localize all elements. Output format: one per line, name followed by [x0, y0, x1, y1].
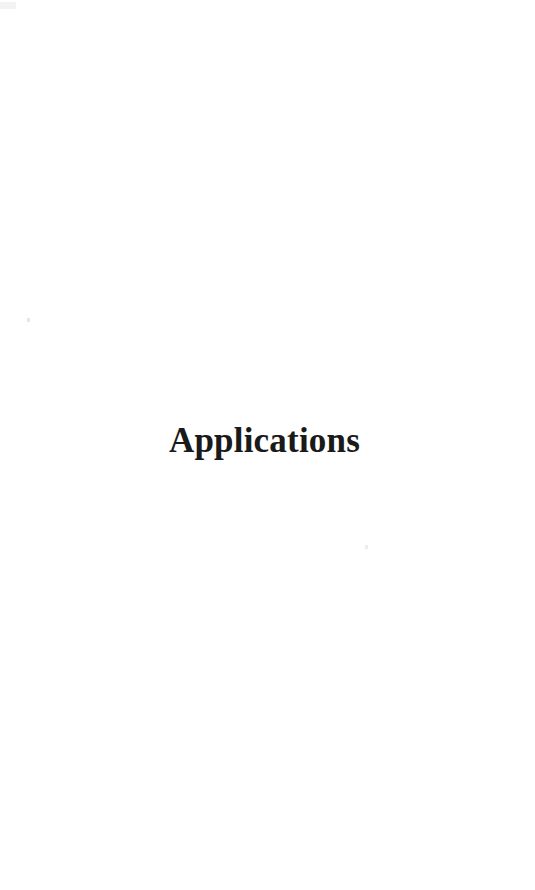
scan-speck-artifact-lower	[365, 545, 368, 549]
scan-smudge-artifact	[0, 2, 16, 9]
part-title-block: Applications	[0, 420, 535, 462]
document-page: Applications	[0, 0, 535, 890]
page-title: Applications	[169, 420, 360, 462]
scan-speck-artifact-left	[27, 318, 30, 322]
